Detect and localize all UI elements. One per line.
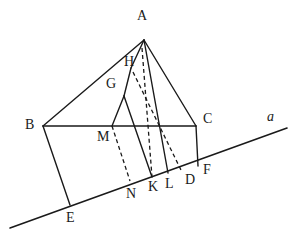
- geometry-figure: A B C D E F G H K L M N a: [0, 0, 293, 243]
- point-label-F: F: [203, 163, 211, 177]
- line-a-label: a: [267, 110, 274, 124]
- segment-H-G: [124, 68, 131, 96]
- point-label-L: L: [165, 177, 174, 191]
- segment-A-K-dashed: [142, 48, 152, 177]
- geometry-canvas: [0, 0, 293, 243]
- point-label-B: B: [25, 118, 34, 132]
- segment-H-D-dashed: [133, 72, 181, 170]
- segment-B-E: [43, 126, 70, 205]
- segment-G-M: [112, 96, 124, 126]
- point-label-A: A: [137, 9, 147, 23]
- point-label-N: N: [126, 187, 136, 201]
- point-label-H: H: [124, 55, 134, 69]
- point-label-K: K: [148, 180, 158, 194]
- segment-B-A: [43, 40, 144, 126]
- point-label-E: E: [66, 211, 75, 225]
- point-label-D: D: [185, 173, 195, 187]
- point-label-M: M: [97, 130, 109, 144]
- segment-M-N-dashed: [112, 126, 130, 181]
- segment-G-K: [124, 96, 152, 177]
- line-a: [10, 128, 287, 228]
- point-label-C: C: [203, 112, 212, 126]
- point-label-G: G: [106, 77, 116, 91]
